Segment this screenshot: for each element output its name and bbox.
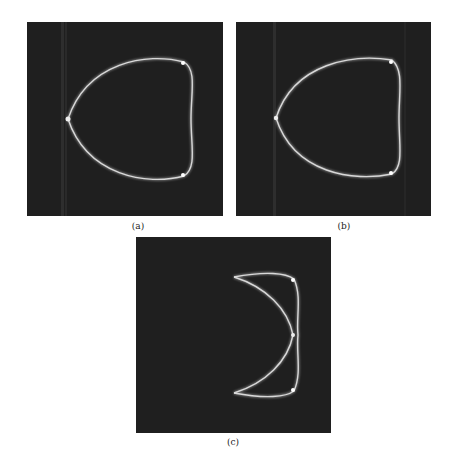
caption-b: (b) [324, 221, 364, 231]
caption-a: (a) [118, 221, 158, 231]
panel-c [136, 237, 331, 433]
contour-image-b [236, 22, 431, 216]
caption-c: (c) [213, 437, 253, 447]
panel-b [236, 22, 431, 216]
contour-image-c [136, 237, 331, 433]
contour-image-a [27, 22, 223, 216]
panel-a [27, 22, 223, 216]
